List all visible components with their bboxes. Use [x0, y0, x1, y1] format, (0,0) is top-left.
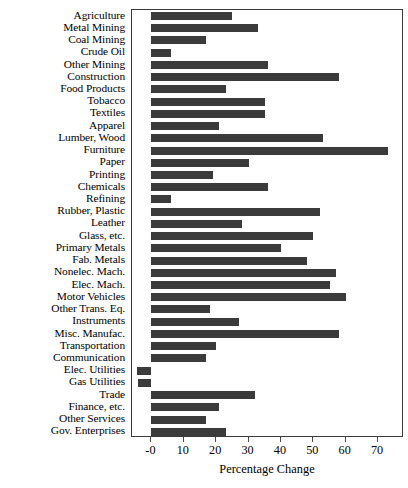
bar-row	[132, 47, 402, 60]
x-axis-tick-labels: -010203040506070	[131, 443, 403, 459]
bar-row	[132, 120, 402, 133]
bar	[151, 318, 238, 326]
category-label: Other Services	[59, 412, 125, 425]
plot-area	[131, 9, 403, 437]
bar-row	[132, 193, 402, 206]
bar-row	[132, 145, 402, 158]
category-label: Primary Metals	[56, 241, 125, 254]
bar	[151, 36, 206, 44]
category-label: Glass, etc.	[79, 229, 125, 242]
bar	[151, 134, 323, 142]
bar-row	[132, 377, 402, 390]
category-label: Other Mining	[64, 58, 125, 71]
bar-row	[132, 132, 402, 145]
x-tick	[248, 437, 249, 442]
category-label: Coal Mining	[68, 33, 125, 46]
bar-row	[132, 389, 402, 402]
bar-row	[132, 255, 402, 268]
x-tick-label: -0	[145, 443, 155, 458]
category-label: Communication	[53, 351, 125, 364]
bar-row	[132, 340, 402, 353]
bar	[151, 257, 306, 265]
bar	[151, 342, 216, 350]
bar-row	[132, 218, 402, 231]
category-label: Transportation	[60, 339, 125, 352]
category-label: Textiles	[90, 106, 125, 119]
category-label: Furniture	[84, 143, 126, 156]
bar	[151, 147, 387, 155]
bar	[151, 354, 206, 362]
bar-row	[132, 414, 402, 427]
category-label: Lumber, Wood	[58, 131, 125, 144]
bar	[151, 12, 232, 20]
category-axis-labels: AgricultureMetal MiningCoal MiningCrude …	[0, 9, 129, 437]
bar-row	[132, 157, 402, 170]
bar	[151, 416, 206, 424]
bar-row	[132, 108, 402, 121]
category-label: Gas Utilities	[69, 375, 125, 388]
bar-row	[132, 22, 402, 35]
bar	[151, 183, 268, 191]
x-tick	[345, 437, 346, 442]
percentage-change-bar-chart: AgricultureMetal MiningCoal MiningCrude …	[0, 0, 408, 488]
category-label: Rubber, Plastic	[57, 204, 125, 217]
bar	[151, 330, 339, 338]
bar	[151, 85, 225, 93]
bar	[151, 24, 258, 32]
bar	[138, 379, 151, 387]
x-axis-title: Percentage Change	[131, 462, 403, 477]
bar-row	[132, 242, 402, 255]
bar-row	[132, 230, 402, 243]
bar	[151, 305, 209, 313]
bar	[151, 281, 329, 289]
x-tick-label: 70	[371, 443, 383, 458]
bar	[151, 269, 336, 277]
category-label: Printing	[89, 168, 125, 181]
x-tick	[150, 437, 151, 442]
category-label: Metal Mining	[63, 21, 125, 34]
category-label: Refining	[86, 192, 125, 205]
category-label: Tobacco	[87, 94, 125, 107]
bar	[151, 403, 219, 411]
x-tick-label: 10	[177, 443, 189, 458]
bar-row	[132, 279, 402, 292]
bar	[151, 195, 170, 203]
x-tick	[215, 437, 216, 442]
category-label: Apparel	[89, 119, 125, 132]
bar-row	[132, 206, 402, 219]
x-tick-label: 30	[241, 443, 253, 458]
bar-row	[132, 71, 402, 84]
x-tick	[377, 437, 378, 442]
bar	[151, 61, 268, 69]
category-label: Paper	[100, 155, 125, 168]
category-label: Leather	[91, 216, 125, 229]
bar	[151, 220, 242, 228]
category-label: Finance, etc.	[68, 400, 125, 413]
bar-row	[132, 59, 402, 72]
x-tick	[183, 437, 184, 442]
bar-row	[132, 401, 402, 414]
category-label: Gov. Enterprises	[51, 424, 125, 437]
bar	[151, 49, 170, 57]
bar	[151, 122, 219, 130]
bar-row	[132, 303, 402, 316]
bar	[151, 428, 225, 436]
bar-row	[132, 169, 402, 182]
bar-row	[132, 96, 402, 109]
category-label: Elec. Utilities	[64, 363, 125, 376]
x-tick	[312, 437, 313, 442]
bar	[151, 110, 264, 118]
category-label: Instruments	[72, 314, 125, 327]
bar-series	[132, 10, 402, 436]
category-label: Agriculture	[74, 9, 125, 22]
bar-row	[132, 10, 402, 23]
category-label: Trade	[99, 388, 125, 401]
bar-row	[132, 267, 402, 280]
category-label: Food Products	[60, 82, 125, 95]
bar	[151, 232, 313, 240]
x-tick	[280, 437, 281, 442]
bar-row	[132, 291, 402, 304]
x-tick-label: 60	[339, 443, 351, 458]
category-label: Misc. Manufac.	[55, 327, 125, 340]
bar-row	[132, 316, 402, 329]
